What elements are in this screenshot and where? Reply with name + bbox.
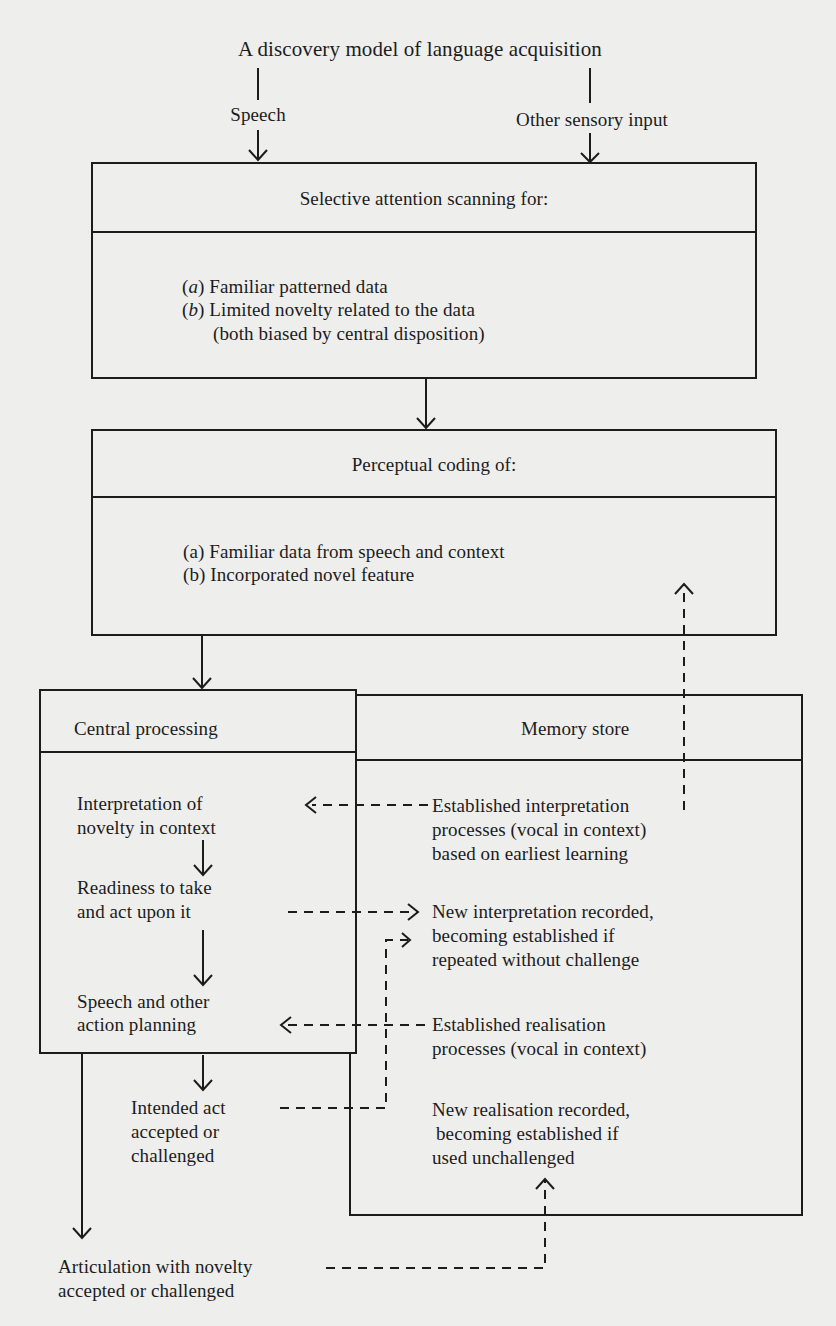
memory-entry-4-line-1: New realisation recorded, bbox=[432, 1098, 630, 1121]
articulation-line-1: Articulation with novelty bbox=[58, 1255, 253, 1278]
central-step-interpretation-2: novelty in context bbox=[77, 816, 216, 839]
central-step-readiness-2: and act upon it bbox=[77, 900, 191, 923]
box-attention-header: Selective attention scanning for: bbox=[300, 187, 549, 210]
memory-entry-1-line-2: processes (vocal in context) bbox=[432, 818, 646, 841]
memory-entry-2-line-2: becoming established if bbox=[432, 924, 615, 947]
memory-entry-2-line-3: repeated without challenge bbox=[432, 948, 639, 971]
central-step-planning-2: action planning bbox=[77, 1013, 196, 1036]
memory-entry-3-line-2: processes (vocal in context) bbox=[432, 1037, 646, 1060]
input-speech-label: Speech bbox=[230, 103, 285, 126]
memory-entry-1-line-3: based on earliest learning bbox=[432, 842, 628, 865]
diagram-title: A discovery model of language acquisitio… bbox=[238, 38, 602, 61]
input-other-sensory-label: Other sensory input bbox=[516, 108, 668, 131]
memory-header: Memory store bbox=[521, 717, 629, 740]
attention-item-b: (b) Limited novelty related to the data bbox=[182, 298, 475, 321]
articulation-line-2: accepted or challenged bbox=[58, 1279, 234, 1302]
intended-act-1: Intended act bbox=[131, 1096, 226, 1119]
intended-act-3: challenged bbox=[131, 1144, 214, 1167]
memory-entry-4-line-2: becoming established if bbox=[436, 1122, 619, 1145]
memory-entry-4-line-3: used unchallenged bbox=[432, 1146, 575, 1169]
central-step-readiness-1: Readiness to take bbox=[77, 876, 212, 899]
attention-item-a: (a) Familiar patterned data bbox=[182, 275, 388, 298]
perceptual-item-a: (a) Familiar data from speech and contex… bbox=[183, 540, 505, 563]
central-step-planning-1: Speech and other bbox=[77, 990, 209, 1013]
perceptual-item-b: (b) Incorporated novel feature bbox=[183, 563, 414, 586]
memory-entry-3-line-1: Established realisation bbox=[432, 1013, 606, 1036]
memory-entry-1-line-1: Established interpretation bbox=[432, 794, 629, 817]
attention-note: (both biased by central disposition) bbox=[213, 322, 485, 345]
intended-act-2: accepted or bbox=[131, 1120, 219, 1143]
box-perceptual-header: Perceptual coding of: bbox=[352, 453, 517, 476]
memory-entry-2-line-1: New interpretation recorded, bbox=[432, 900, 654, 923]
central-header: Central processing bbox=[74, 717, 218, 740]
central-step-interpretation-1: Interpretation of bbox=[77, 792, 203, 815]
